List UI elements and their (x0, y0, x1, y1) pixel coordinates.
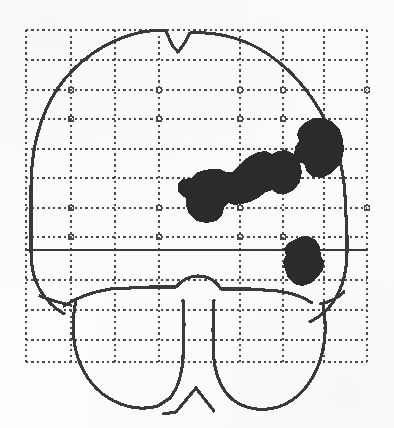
cerebellum-left-lobe (73, 300, 184, 408)
cerebellum-bridge-left (40, 296, 70, 305)
grid-marker (237, 116, 242, 121)
activation-blob-cluster-2 (294, 118, 344, 178)
activation-blob-cluster-3 (283, 236, 324, 286)
grid-marker (237, 234, 242, 239)
grid-marker (156, 87, 161, 92)
grid-marker (237, 205, 242, 210)
grid-marker (280, 87, 285, 92)
vermis-notch (163, 388, 214, 414)
left-temporal-outline (31, 252, 64, 314)
cerebellum-group (40, 276, 344, 414)
grid-marker (156, 116, 161, 121)
grid-marker (280, 234, 285, 239)
activation-blobs-group (178, 118, 344, 286)
grid-marker (237, 87, 242, 92)
grid-marker (156, 234, 161, 239)
brain-projection-canvas (0, 0, 394, 428)
grid-marker (280, 116, 285, 121)
glass-brain-figure (0, 0, 394, 428)
grid-marker (156, 205, 161, 210)
cerebellum-right-lobe (213, 300, 325, 409)
